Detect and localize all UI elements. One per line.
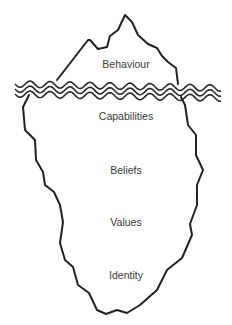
label-beliefs: Beliefs <box>110 164 142 176</box>
label-values: Values <box>110 216 141 228</box>
label-capabilities: Capabilities <box>99 110 153 122</box>
label-identity: Identity <box>109 269 144 281</box>
label-behaviour: Behaviour <box>102 58 150 70</box>
water-wave-line <box>15 91 221 101</box>
water-waves <box>15 81 221 101</box>
iceberg-body-outline <box>23 95 203 314</box>
iceberg-tip-outline <box>57 15 178 84</box>
iceberg-diagram: Behaviour Capabilities Beliefs Values Id… <box>0 0 232 325</box>
